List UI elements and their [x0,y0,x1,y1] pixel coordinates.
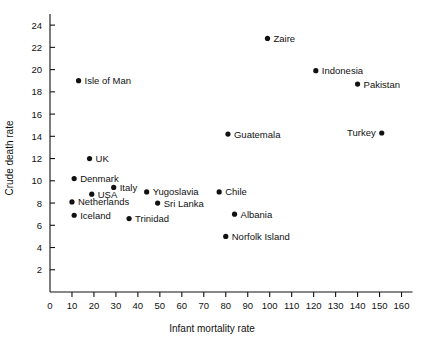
data-point-marker [313,68,318,73]
y-tick-label: 2 [37,264,42,275]
y-tick-label: 22 [31,42,42,53]
data-point: Norfolk Island [223,231,290,242]
data-point-label: Sri Lanka [164,198,205,209]
y-tick-label: 8 [37,198,42,209]
data-point: Yugoslavia [144,186,199,197]
data-point-label: Italy [120,182,138,193]
y-tick-label: 18 [31,86,42,97]
data-point-label: Albania [241,209,273,220]
x-tick-label: 60 [177,300,188,311]
data-point-label: Netherlands [78,196,129,207]
y-tick-label: 14 [31,131,42,142]
data-point-marker [87,156,92,161]
data-point-label: Guatemala [234,129,281,140]
y-tick-label: 24 [31,20,42,31]
y-tick-label: 6 [37,220,42,231]
data-point: Netherlands [69,196,129,207]
x-tick-label: 10 [67,300,78,311]
data-point-label: Zaire [274,33,296,44]
data-point-marker [225,131,230,136]
scatter-plot-infant-mortality-vs-crude-death: 0102030405060708090100110120130140150160… [0,0,424,345]
x-axis-title: Infant mortality rate [169,323,255,334]
data-point: Denmark [72,173,119,184]
x-tick-label: 90 [242,300,253,311]
y-tick-label: 4 [37,242,42,253]
data-point: Indonesia [313,65,364,76]
x-tick-label: 150 [372,300,388,311]
x-tick-label: 80 [220,300,231,311]
x-tick-label: 30 [111,300,122,311]
y-tick-label: 20 [31,64,42,75]
data-point-label: Isle of Man [85,75,131,86]
x-tick-label: 70 [199,300,210,311]
x-tick-label: 0 [47,300,52,311]
x-tick-label: 120 [306,300,322,311]
data-point-label: Pakistan [364,79,400,90]
data-point: UK [87,153,109,164]
x-tick-label: 20 [89,300,100,311]
data-point-marker [265,36,270,41]
x-tick-label: 130 [328,300,344,311]
data-point-label: Turkey [347,127,376,138]
data-point-marker [355,81,360,86]
data-point: Albania [232,209,273,220]
data-point-marker [144,189,149,194]
x-tick-label: 160 [394,300,410,311]
data-point-label: UK [96,153,110,164]
data-point-marker [69,199,74,204]
y-tick-label: 10 [31,175,42,186]
y-axis-title: Crude death rate [4,120,15,195]
data-point: Zaire [265,33,295,44]
x-tick-label: 50 [155,300,166,311]
data-point-label: Denmark [80,173,119,184]
data-point-marker [379,130,384,135]
data-point: Turkey [347,127,384,138]
data-point-marker [126,216,131,221]
x-tick-label: 110 [284,300,299,311]
data-point-marker [223,234,228,239]
data-point: Isle of Man [76,75,131,86]
data-point-marker [232,212,237,217]
data-point: Trinidad [126,213,169,224]
data-point-label: Yugoslavia [153,186,200,197]
data-point-label: Indonesia [322,65,364,76]
data-point-marker [76,78,81,83]
y-tick-label: 12 [31,153,42,164]
data-points-group: Isle of ManUKDenmarkItalyUSANetherlandsI… [69,33,400,242]
data-point: Chile [217,186,247,197]
data-point: Sri Lanka [155,198,204,209]
data-point: Guatemala [225,129,281,140]
y-axis-ticks: 24681012141618202224 [31,20,55,276]
data-point-marker [155,200,160,205]
plot-canvas: 0102030405060708090100110120130140150160… [0,0,424,345]
x-axis-ticks: 0102030405060708090100110120130140150160 [47,292,409,311]
data-point-marker [72,176,77,181]
data-point-label: Trinidad [135,213,169,224]
data-point-label: Chile [225,186,247,197]
data-point-marker [72,213,77,218]
data-point: Pakistan [355,79,400,90]
data-point-label: Iceland [80,210,111,221]
y-tick-label: 16 [31,109,42,120]
x-tick-label: 100 [262,300,278,311]
x-tick-label: 40 [133,300,144,311]
data-point-label: Norfolk Island [232,231,290,242]
data-point: Iceland [72,210,111,221]
data-point-marker [217,189,222,194]
x-tick-label: 140 [350,300,366,311]
